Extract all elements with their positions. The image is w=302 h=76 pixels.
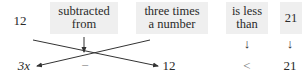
expr-12: 12 <box>160 59 178 73</box>
expr-minus: − <box>78 59 92 73</box>
expr-3x: 3x <box>14 59 34 73</box>
expr-less-than: < <box>240 59 254 73</box>
expr-21: 21 <box>280 59 300 73</box>
expr-3x-text: 3x <box>18 58 30 73</box>
crossing-arrows <box>0 0 302 76</box>
